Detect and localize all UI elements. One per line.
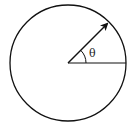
angle-arc [81,50,86,63]
vector-arrow [68,24,107,63]
unit-circle-diagram: θ [0,0,136,126]
theta-label: θ [89,47,96,60]
